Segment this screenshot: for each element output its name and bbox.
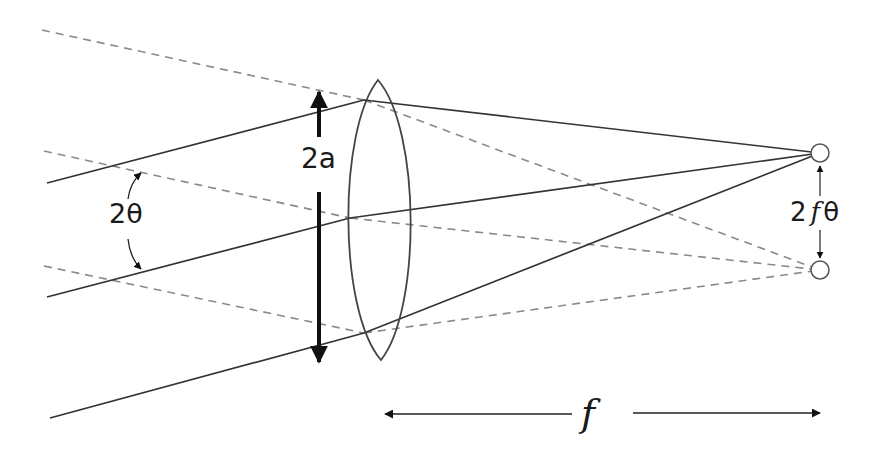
dashed-ray-top (42, 30, 364, 100)
dashed-ray-bottom-refracted (364, 270, 820, 333)
arrow-icon (72, 173, 84, 176)
image-separation-f: f (811, 197, 821, 227)
arrow-icon (72, 287, 84, 290)
solid-ray-middle-refracted (350, 153, 820, 218)
image-separation-suffix: θ (823, 197, 839, 227)
solid-ray-middle (47, 218, 350, 297)
arrow-icon (75, 408, 87, 411)
lens-diagram (0, 0, 881, 465)
image-spot-bottom (811, 261, 829, 279)
image-spot-top (811, 144, 829, 162)
dashed-ray-arrowheads (75, 37, 89, 276)
arrow-icon (76, 158, 89, 161)
image-separation-prefix: 2 (790, 197, 807, 227)
focal-length-label: f (581, 394, 595, 432)
arrow-icon (75, 37, 88, 40)
angle-label: 2θ (109, 200, 143, 227)
solid-ray-top-refracted (364, 100, 820, 153)
angle-arc-upper (128, 173, 141, 199)
focal-length-arrow (385, 413, 820, 414)
solid-ray-bottom-refracted (364, 153, 820, 333)
image-separation-label: 2fθ (790, 199, 839, 225)
dashed-ray-bottom (44, 266, 364, 333)
dashed-rays (42, 30, 820, 333)
solid-rays (47, 100, 820, 418)
aperture-label: 2a (301, 145, 336, 173)
angle-arc-lower (128, 239, 141, 269)
solid-ray-bottom (50, 333, 364, 418)
solid-ray-arrowheads (72, 173, 87, 411)
